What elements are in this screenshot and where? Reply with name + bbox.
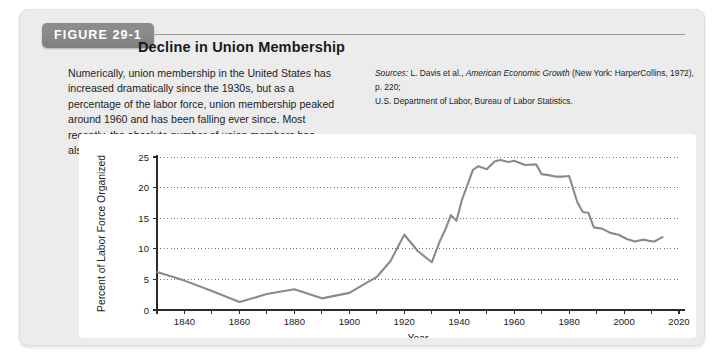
axis-ticks	[153, 157, 679, 314]
svg-text:0: 0	[144, 305, 149, 316]
x-axis-tick-labels: 1840186018801900192019401960198020002020	[174, 316, 690, 327]
svg-text:25: 25	[138, 152, 149, 163]
svg-text:2020: 2020	[668, 316, 689, 327]
figure-panel: FIGURE 29-1 Decline in Union Membership …	[19, 9, 705, 346]
gridlines	[157, 157, 679, 310]
chart-axes	[157, 155, 685, 310]
svg-text:1900: 1900	[339, 316, 360, 327]
figure-title: Decline in Union Membership	[138, 39, 438, 55]
svg-text:5: 5	[144, 274, 149, 285]
svg-text:1960: 1960	[503, 316, 524, 327]
sources-label: Sources:	[375, 68, 408, 78]
svg-text:20: 20	[138, 182, 149, 193]
data-series-line	[157, 160, 663, 302]
title-divider-rule	[152, 34, 685, 35]
svg-text:2000: 2000	[613, 316, 634, 327]
svg-text:10: 10	[138, 243, 149, 254]
svg-text:1880: 1880	[284, 316, 305, 327]
y-axis-tick-labels: 0510152025	[138, 152, 149, 316]
svg-text:1980: 1980	[558, 316, 579, 327]
sources-line-two: U.S. Department of Labor, Bureau of Labo…	[375, 96, 573, 106]
svg-text:1920: 1920	[394, 316, 415, 327]
sources-book-title: American Economic Growth	[466, 68, 570, 78]
svg-text:1860: 1860	[229, 316, 250, 327]
y-axis-title: Percent of Labor Force Organized	[96, 155, 107, 312]
sources-text-a: L. Davis et al.,	[408, 68, 466, 78]
svg-text:1840: 1840	[174, 316, 195, 327]
svg-text:1940: 1940	[449, 316, 470, 327]
x-axis-title: Year	[408, 333, 430, 338]
figure-sources: Sources: L. Davis et al., American Econo…	[375, 66, 695, 108]
svg-text:15: 15	[138, 213, 149, 224]
union-membership-line-chart: 1840186018801900192019401960198020002020…	[79, 134, 696, 338]
chart-card: 1840186018801900192019401960198020002020…	[79, 134, 696, 338]
